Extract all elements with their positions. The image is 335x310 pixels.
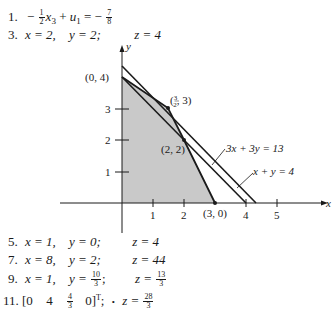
vertex-dot bbox=[213, 201, 217, 205]
y-value: y = 0; bbox=[69, 234, 101, 249]
y-value: y = bbox=[69, 271, 87, 286]
point-label-2-2: (2, 2) bbox=[161, 143, 185, 156]
semicolon: ; bbox=[102, 271, 106, 286]
y-tick-label: 2 bbox=[105, 134, 111, 146]
answer-number: 11. bbox=[3, 293, 19, 308]
denominator: 3 bbox=[68, 302, 72, 310]
vertex-dot bbox=[182, 138, 186, 142]
fraction: 283 bbox=[143, 293, 153, 310]
x-tick-label: 5 bbox=[274, 209, 280, 221]
answer-5: 5. x = 1, y = 0; z = 4 bbox=[8, 234, 159, 250]
denominator: 3 bbox=[159, 280, 163, 288]
fraction: 103 bbox=[91, 271, 101, 288]
answer-number: 7. bbox=[8, 252, 18, 267]
answer-number: 9. bbox=[8, 271, 18, 286]
answer-7: 7. x = 8, y = 2; z = 44 bbox=[8, 252, 166, 268]
line-label-x-y-4: x + y = 4 bbox=[252, 165, 295, 177]
point-label-3-0: (3, 0) bbox=[203, 207, 227, 220]
point-label-0-4: (0, 4) bbox=[85, 71, 109, 84]
denominator: 3 bbox=[146, 302, 150, 310]
x-tick-label: 2 bbox=[181, 209, 187, 221]
y-tick-label: 3 bbox=[105, 103, 111, 115]
z-value: z = bbox=[122, 293, 139, 308]
denominator: 3 bbox=[94, 280, 98, 288]
answer-11: 11. [0 4 43 0]T; • z = 283 bbox=[3, 290, 154, 310]
point-label-3-2-3: (32, 3) bbox=[170, 94, 192, 109]
fraction: 43 bbox=[67, 293, 73, 310]
leader-line bbox=[237, 173, 253, 188]
x-value: x = 1, bbox=[25, 234, 56, 249]
x-tick-label: 4 bbox=[243, 209, 249, 221]
line-label-3x-3y-13: 3x + 3y = 13 bbox=[225, 142, 284, 154]
vector-entry: 0] bbox=[85, 293, 96, 308]
y-axis-label: y bbox=[125, 40, 131, 52]
answer-9: 9. x = 1, y = 103; z = 133 bbox=[8, 271, 167, 289]
fraction: 133 bbox=[156, 271, 166, 288]
y-value: y = 2; bbox=[69, 252, 101, 267]
x-value: x = 8, bbox=[25, 252, 56, 267]
vector-entry: 4 bbox=[46, 293, 53, 308]
vector-entry: [0 bbox=[22, 293, 33, 308]
z-value: z = 44 bbox=[132, 252, 165, 267]
x-tick-label: 1 bbox=[150, 209, 156, 221]
z-value: z = 4 bbox=[132, 234, 159, 249]
x-axis-label: x bbox=[325, 197, 331, 209]
y-axis-arrow-icon bbox=[120, 45, 125, 52]
vertex-dot bbox=[166, 106, 170, 110]
semicolon: ; bbox=[101, 293, 105, 308]
answer-number: 5. bbox=[8, 234, 18, 249]
leader-line bbox=[212, 149, 225, 165]
z-value: z = bbox=[135, 271, 152, 286]
feasible-region bbox=[122, 77, 215, 203]
bullet-icon: • bbox=[112, 297, 115, 307]
y-tick-label: 1 bbox=[105, 166, 111, 178]
x-value: x = 1, bbox=[25, 271, 56, 286]
